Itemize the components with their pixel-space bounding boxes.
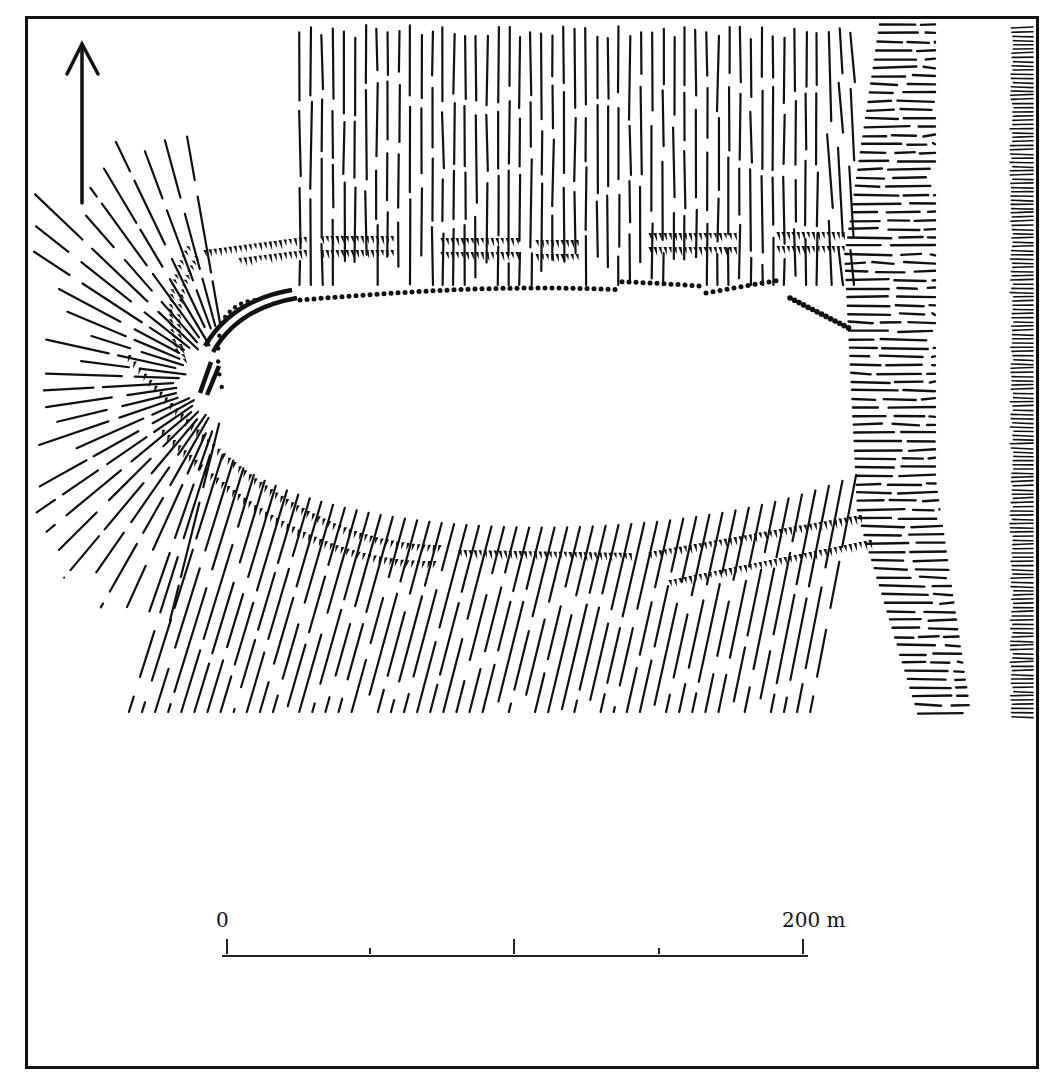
- cliff-hachures: [845, 24, 969, 713]
- site-plan: [0, 0, 1061, 1084]
- scale-end-label: 200 m: [782, 908, 846, 932]
- north-arrow-icon: [67, 44, 98, 203]
- wall-segment: [200, 290, 297, 395]
- slope-hachures: [34, 25, 856, 712]
- rampart-dotted-line: [216, 278, 851, 389]
- scale-bar: [222, 939, 808, 956]
- east-edge-hachures: [1010, 27, 1033, 718]
- terrace-hachures: [128, 232, 873, 587]
- scale-start-label: 0: [216, 908, 229, 932]
